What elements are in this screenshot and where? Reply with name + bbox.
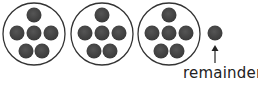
group-circle-1 <box>3 3 65 65</box>
dot <box>27 8 42 23</box>
dot <box>78 26 93 41</box>
dot <box>95 8 110 23</box>
dot <box>44 26 59 41</box>
group-circle-2 <box>71 3 133 65</box>
dot <box>87 44 102 59</box>
dot <box>179 26 194 41</box>
dot <box>10 26 25 41</box>
dot <box>103 44 118 59</box>
dot <box>19 44 34 59</box>
dot <box>27 26 42 41</box>
arrow-up-icon <box>212 45 219 63</box>
dot <box>112 26 127 41</box>
dot <box>154 44 169 59</box>
remainder-dot <box>208 26 223 41</box>
dot <box>35 44 50 59</box>
dot <box>95 26 110 41</box>
dot <box>170 44 185 59</box>
dot <box>162 8 177 23</box>
dot <box>145 26 160 41</box>
dot <box>162 26 177 41</box>
remainder-label: remainder <box>183 64 258 82</box>
group-circle-3 <box>138 3 200 65</box>
